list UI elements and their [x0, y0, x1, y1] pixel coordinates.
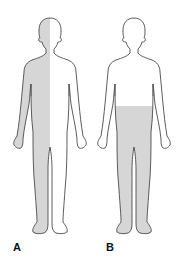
shaded-left-half — [0, 0, 50, 240]
figure-label-b: B — [106, 240, 114, 254]
body-outline-b — [84, 0, 184, 240]
figure-label-a: A — [13, 240, 21, 254]
shaded-lower-body — [114, 106, 154, 240]
figure-b-body-diagram — [84, 0, 184, 240]
